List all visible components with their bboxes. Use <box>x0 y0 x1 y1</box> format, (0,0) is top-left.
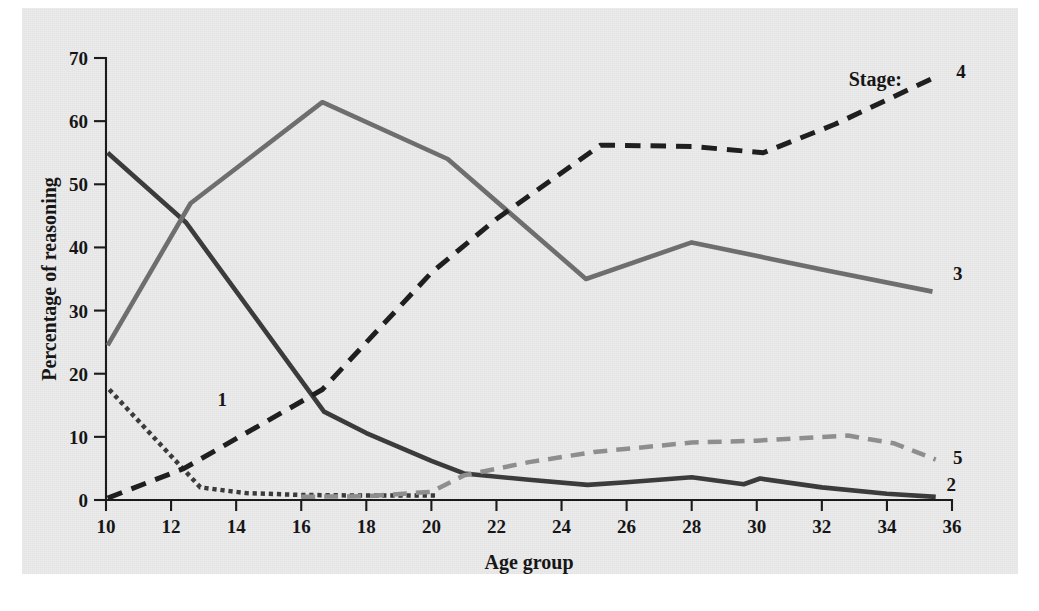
figure-page: 0102030405060701012141618202224262830323… <box>0 0 1039 611</box>
series-label-2: 2 <box>946 474 956 495</box>
x-tick-label: 16 <box>292 516 311 537</box>
series-line-3 <box>108 102 933 345</box>
chart-panel: 0102030405060701012141618202224262830323… <box>22 8 1018 574</box>
chart-axes <box>106 58 952 500</box>
x-tick-label: 30 <box>747 516 766 537</box>
y-tick-label: 60 <box>69 111 88 132</box>
legend-title: Stage: <box>849 68 902 91</box>
series-label-4: 4 <box>956 61 966 82</box>
x-tick-label: 22 <box>487 516 506 537</box>
y-tick-label: 40 <box>69 237 88 258</box>
series-label-1: 1 <box>218 389 228 410</box>
x-tick-label: 24 <box>552 516 572 537</box>
x-tick-label: 20 <box>422 516 441 537</box>
y-tick-label: 20 <box>69 364 88 385</box>
series-line-2 <box>108 153 936 497</box>
y-axis-title: Percentage of reasoning <box>38 177 61 381</box>
y-tick-label: 50 <box>69 174 88 195</box>
y-tick-label: 10 <box>69 427 88 448</box>
line-chart: 0102030405060701012141618202224262830323… <box>22 8 1018 574</box>
y-tick-label: 0 <box>79 490 89 511</box>
x-tick-label: 34 <box>877 516 897 537</box>
x-tick-label: 18 <box>357 516 376 537</box>
y-tick-label: 70 <box>69 48 88 69</box>
y-tick-label: 30 <box>69 301 88 322</box>
series-label-3: 3 <box>953 263 963 284</box>
x-tick-label: 10 <box>97 516 116 537</box>
x-tick-label: 36 <box>943 516 962 537</box>
x-axis-title: Age group <box>484 551 573 574</box>
x-tick-label: 32 <box>812 516 831 537</box>
x-tick-label: 28 <box>682 516 701 537</box>
x-tick-label: 12 <box>162 516 181 537</box>
series-label-5: 5 <box>953 447 963 468</box>
x-tick-label: 26 <box>617 516 636 537</box>
x-tick-label: 14 <box>227 516 247 537</box>
